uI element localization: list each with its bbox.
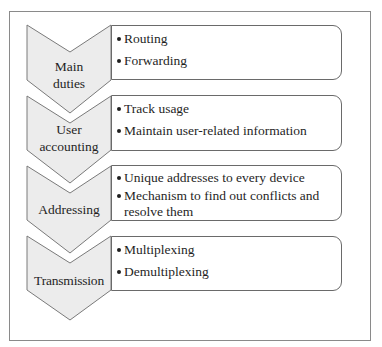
stage-4-label-line-1: Transmission <box>25 272 113 289</box>
stage-2-details-box: Track usage Maintain user-related inform… <box>111 95 342 151</box>
stage-4-label: Transmission <box>25 272 113 289</box>
bullet-icon <box>117 248 121 252</box>
stage-3-label: Addressing <box>27 201 111 218</box>
stage-3-item-1-text: Unique addresses to every device <box>124 170 305 185</box>
bullet-icon <box>117 59 121 63</box>
stage-1-item-1: Routing <box>117 31 335 47</box>
bullet-icon <box>117 176 121 180</box>
bullet-icon <box>117 129 121 133</box>
stage-4-item-2-text: Demultiplexing <box>124 264 209 279</box>
stage-4-details-box: Multiplexing Demultiplexing <box>111 236 342 291</box>
bullet-icon <box>117 194 121 198</box>
stage-4-item-1-text: Multiplexing <box>124 242 195 257</box>
stage-2-item-1-text: Track usage <box>124 101 189 116</box>
stage-4-item-2: Demultiplexing <box>117 264 335 280</box>
stage-1-details-box: Routing Forwarding <box>111 25 342 80</box>
stage-1-item-1-text: Routing <box>124 31 168 46</box>
bullet-icon <box>117 37 121 41</box>
stage-2-label-line-1: User <box>27 121 111 138</box>
stage-3-item-1: Unique addresses to every device <box>117 170 335 186</box>
bullet-icon <box>117 107 121 111</box>
stage-2-item-2-text: Maintain user-related information <box>124 123 307 138</box>
stage-2-label-line-2: accounting <box>27 138 111 155</box>
stage-3-item-2: Mechanism to find out conflicts and reso… <box>117 188 335 220</box>
stage-1-item-2: Forwarding <box>117 53 335 69</box>
stage-1-label-line-2: duties <box>27 75 111 92</box>
stage-3-details-box: Unique addresses to every device Mechani… <box>111 165 342 221</box>
stage-2-item-1: Track usage <box>117 101 335 117</box>
stage-1-item-2-text: Forwarding <box>124 53 187 68</box>
stage-2-item-2: Maintain user-related information <box>117 123 335 139</box>
stage-3-label-line-1: Addressing <box>27 201 111 218</box>
stage-3-item-2-text: Mechanism to find out conflicts and reso… <box>124 188 319 219</box>
stage-1-label: Main duties <box>27 58 111 92</box>
bullet-icon <box>117 270 121 274</box>
stage-2-label: User accounting <box>27 121 111 155</box>
stage-4-item-1: Multiplexing <box>117 242 335 258</box>
stage-1-label-line-1: Main <box>27 58 111 75</box>
